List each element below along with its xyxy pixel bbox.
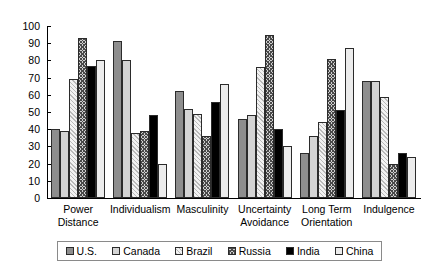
legend-swatch-icon [228, 247, 236, 255]
x-axis-label: Indulgence [358, 201, 420, 237]
chart-title-clipped [0, 0, 439, 7]
bar-india [211, 102, 220, 198]
bar-india [336, 110, 345, 198]
bar-us [175, 91, 184, 198]
bar-canada [60, 131, 69, 198]
x-axis-label-line: Uncertainty [234, 203, 296, 216]
legend-label: China [346, 246, 373, 257]
bar-brazil [256, 67, 265, 198]
y-axis-tick-label: 80 [28, 55, 40, 65]
x-axis-label: UncertaintyAvoidance [234, 201, 296, 237]
bar-group [358, 26, 420, 198]
hofstede-dimensions-bar-chart: 0102030405060708090100 PowerDistanceIndi… [0, 0, 439, 270]
bar-brazil [69, 79, 78, 198]
bar-brazil [131, 133, 140, 198]
x-axis-label: Masculinity [171, 201, 233, 237]
bar-china [283, 146, 292, 198]
y-axis-tick-label: 100 [22, 21, 40, 31]
y-axis-tick-label: 30 [28, 141, 40, 151]
bar-canada [371, 81, 380, 198]
y-axis-tick-label: 0 [34, 193, 40, 203]
x-axis-label-line: Power [47, 203, 109, 216]
bar-russia [140, 131, 149, 198]
y-axis: 0102030405060708090100 [0, 26, 47, 198]
x-axis-label: Long TermOrientation [296, 201, 358, 237]
legend-item-brazil[interactable]: Brazil [175, 246, 212, 257]
legend-swatch-icon [112, 247, 120, 255]
bar-china [220, 84, 229, 198]
x-axis-category-labels: PowerDistanceIndividualismMasculinityUnc… [47, 201, 420, 237]
bar-group [47, 26, 109, 198]
bar-canada [247, 115, 256, 198]
bar-us [113, 41, 122, 198]
legend-item-russia[interactable]: Russia [228, 246, 271, 257]
legend-label: Canada [123, 246, 160, 257]
bar-canada [309, 136, 318, 198]
legend-item-china[interactable]: China [335, 246, 373, 257]
bar-china [96, 60, 105, 198]
x-axis-label-line: Orientation [296, 216, 358, 229]
bar-us [238, 119, 247, 198]
legend-label: Brazil [186, 246, 212, 257]
legend-swatch-icon [175, 247, 183, 255]
y-axis-tick-label: 60 [28, 90, 40, 100]
bar-canada [184, 109, 193, 198]
bar-brazil [380, 97, 389, 198]
legend-label: India [297, 246, 320, 257]
x-axis-label-line: Indulgence [358, 203, 420, 216]
bar-brazil [318, 122, 327, 198]
bar-china [407, 157, 416, 198]
y-axis-tick-label: 90 [28, 38, 40, 48]
legend-label: Russia [239, 246, 271, 257]
bar-russia [202, 136, 211, 198]
bar-china [158, 164, 167, 198]
bar-russia [78, 38, 87, 198]
y-axis-tick-label: 20 [28, 159, 40, 169]
legend-item-canada[interactable]: Canada [112, 246, 160, 257]
legend-swatch-icon [66, 247, 74, 255]
legend-label: U.S. [77, 246, 97, 257]
bar-india [87, 66, 96, 198]
legend-item-us[interactable]: U.S. [66, 246, 97, 257]
x-axis-label-line: Long Term [296, 203, 358, 216]
bar-groups [47, 26, 420, 198]
bar-canada [122, 60, 131, 198]
x-axis-label-line: Masculinity [171, 203, 233, 216]
bar-us [300, 153, 309, 198]
legend-swatch-icon [335, 247, 343, 255]
y-axis-tick-label: 70 [28, 73, 40, 83]
bar-us [51, 129, 60, 198]
x-axis-label: Individualism [109, 201, 171, 237]
legend-swatch-icon [286, 247, 294, 255]
y-axis-tick-label: 50 [28, 107, 40, 117]
legend-item-india[interactable]: India [286, 246, 320, 257]
x-axis-label-line: Distance [47, 216, 109, 229]
bar-group [171, 26, 233, 198]
bar-india [149, 115, 158, 198]
bar-group [234, 26, 296, 198]
x-axis-label: PowerDistance [47, 201, 109, 237]
bar-china [345, 48, 354, 198]
bar-russia [265, 35, 274, 198]
chart-legend: U.S.CanadaBrazilRussiaIndiaChina [57, 241, 382, 261]
bar-india [398, 153, 407, 198]
bar-us [362, 81, 371, 198]
bar-group [296, 26, 358, 198]
bar-india [274, 129, 283, 198]
y-axis-tick-label: 40 [28, 124, 40, 134]
x-axis-label-line: Individualism [109, 203, 171, 216]
x-axis-label-line: Avoidance [234, 216, 296, 229]
bar-brazil [193, 114, 202, 198]
bar-russia [389, 164, 398, 198]
y-axis-tick-label: 10 [28, 176, 40, 186]
bar-group [109, 26, 171, 198]
bar-russia [327, 59, 336, 198]
